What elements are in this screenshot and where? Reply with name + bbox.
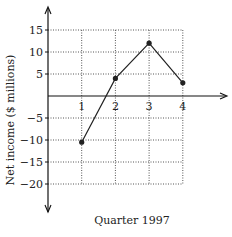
- data-series: [79, 41, 185, 145]
- line-chart: 15105−5−10−15−20 1234 Quarter 1997 Net i…: [0, 0, 232, 237]
- data-line: [82, 43, 183, 142]
- data-point: [113, 76, 118, 81]
- x-tick-label: 3: [146, 100, 153, 113]
- y-tick-label: −20: [20, 178, 43, 191]
- data-point: [79, 140, 84, 145]
- axes: [45, 7, 227, 212]
- y-tick-label: −10: [20, 134, 43, 147]
- x-axis-title: Quarter 1997: [94, 214, 170, 227]
- x-tick-labels: 1234: [78, 100, 186, 113]
- x-tick-label: 4: [179, 100, 186, 113]
- y-tick-label: 10: [29, 46, 43, 59]
- x-tick-label: 2: [112, 100, 119, 113]
- y-tick-label: −5: [27, 112, 43, 125]
- y-tick-label: 15: [29, 24, 43, 37]
- x-tick-label: 1: [78, 100, 85, 113]
- y-tick-labels: 15105−5−10−15−20: [20, 24, 43, 191]
- data-point: [147, 41, 152, 46]
- y-tick-label: 5: [36, 68, 43, 81]
- y-axis-title: Net income ($ millions): [4, 55, 17, 186]
- y-tick-label: −15: [20, 156, 43, 169]
- data-point: [180, 80, 185, 85]
